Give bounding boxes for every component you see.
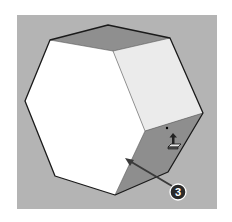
callout-number: 3	[175, 186, 181, 198]
hexagon-prism-diagram: 3	[0, 0, 232, 222]
callout-badge: 3	[170, 184, 186, 200]
